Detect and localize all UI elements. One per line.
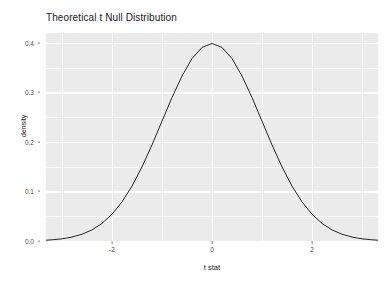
x-tick-label: 2 bbox=[310, 246, 314, 253]
plot-panel bbox=[46, 33, 378, 241]
y-tick-label: 0.3 bbox=[25, 89, 34, 96]
x-tick-label: -2 bbox=[109, 246, 115, 253]
y-tick-label: 0.2 bbox=[25, 138, 34, 145]
y-tick-mark bbox=[38, 42, 41, 43]
y-tick-mark bbox=[38, 92, 41, 93]
y-tick-mark bbox=[38, 142, 41, 143]
x-tick-mark bbox=[112, 241, 113, 244]
y-tick-label: 0.4 bbox=[25, 39, 34, 46]
x-tick-mark bbox=[212, 241, 213, 244]
y-tick-mark bbox=[38, 241, 41, 242]
x-axis-title: t stat bbox=[46, 263, 378, 272]
y-tick-mark bbox=[38, 191, 41, 192]
y-tick-label: 0.0 bbox=[25, 238, 34, 245]
x-axis: -202 bbox=[46, 241, 378, 257]
density-curve bbox=[46, 33, 378, 241]
x-tick-mark bbox=[312, 241, 313, 244]
chart-container: Theoretical t Null Distribution 0.00.10.… bbox=[0, 0, 391, 291]
x-tick-label: 0 bbox=[210, 246, 214, 253]
y-axis: 0.00.10.20.30.4 bbox=[0, 33, 40, 241]
y-tick-label: 0.1 bbox=[25, 188, 34, 195]
y-axis-title: density bbox=[20, 115, 27, 137]
chart-title: Theoretical t Null Distribution bbox=[46, 12, 177, 23]
